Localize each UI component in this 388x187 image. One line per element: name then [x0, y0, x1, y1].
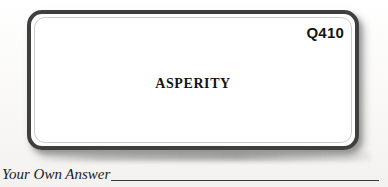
your-own-answer-writing-line[interactable]: [111, 180, 379, 181]
your-own-answer-row[interactable]: Your Own Answer: [2, 163, 384, 183]
flashcard-page: Q410 ASPERITY Your Own Answer: [0, 0, 388, 187]
question-card[interactable]: Q410 ASPERITY: [27, 10, 359, 150]
question-number-label: Q410: [307, 25, 345, 40]
card-frame: Q410 ASPERITY: [27, 10, 359, 150]
vocabulary-word: ASPERITY: [31, 77, 355, 91]
your-own-answer-label: Your Own Answer: [2, 167, 111, 183]
